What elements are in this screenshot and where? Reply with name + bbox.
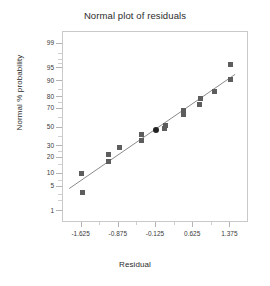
y-tick xyxy=(56,157,62,158)
data-point xyxy=(162,126,167,131)
y-tick-minor xyxy=(58,200,62,201)
x-tick-label: -0.125 xyxy=(135,230,175,237)
x-tick-label: -0.875 xyxy=(98,230,138,237)
y-tick-label: 99 xyxy=(14,39,54,46)
y-tick-minor xyxy=(58,89,62,90)
y-tick-minor xyxy=(58,59,62,60)
y-tick-minor xyxy=(58,180,62,181)
y-tick-minor xyxy=(58,63,62,64)
y-tick xyxy=(56,145,62,146)
normal-probability-plot: Normal plot of residuals Normal % probab… xyxy=(0,0,270,286)
plot-area xyxy=(62,31,248,222)
y-tick-minor xyxy=(58,136,62,137)
y-tick-label: 10 xyxy=(14,169,54,176)
data-point xyxy=(106,152,111,157)
data-point xyxy=(106,159,111,164)
data-point xyxy=(197,102,202,107)
data-point xyxy=(212,89,217,94)
y-tick-label: 20 xyxy=(14,153,54,160)
data-point xyxy=(139,138,144,143)
y-tick-minor xyxy=(58,102,62,103)
y-tick xyxy=(56,173,62,174)
chart-title: Normal plot of residuals xyxy=(0,10,270,21)
x-tick-label: 1.375 xyxy=(209,230,249,237)
y-tick xyxy=(56,80,62,81)
y-tick xyxy=(56,96,62,97)
y-tick xyxy=(56,108,62,109)
y-tick-label: 90 xyxy=(14,77,54,84)
y-tick-minor xyxy=(58,53,62,54)
y-tick-minor xyxy=(58,164,62,165)
y-tick-minor xyxy=(58,194,62,195)
x-tick-minor xyxy=(136,222,137,225)
data-point xyxy=(181,112,186,117)
y-tick-label: 30 xyxy=(14,142,54,149)
y-tick xyxy=(56,186,62,187)
y-tick xyxy=(56,67,62,68)
data-point-highlighted xyxy=(153,127,159,133)
y-tick-label: 70 xyxy=(14,104,54,111)
x-tick-minor xyxy=(174,222,175,225)
x-tick-minor xyxy=(211,222,212,225)
x-tick-label: -1.625 xyxy=(61,230,101,237)
data-point xyxy=(198,96,203,101)
x-tick xyxy=(155,222,156,227)
data-point xyxy=(80,190,85,195)
data-point xyxy=(139,132,144,137)
y-tick-minor xyxy=(58,117,62,118)
data-point xyxy=(117,145,122,150)
y-tick-label: 1 xyxy=(14,207,54,214)
x-tick xyxy=(118,222,119,227)
x-tick xyxy=(192,222,193,227)
x-tick xyxy=(81,222,82,227)
y-tick-label: 95 xyxy=(14,64,54,71)
x-tick-label: 0.625 xyxy=(172,230,212,237)
y-tick xyxy=(56,43,62,44)
data-point xyxy=(228,62,233,67)
x-tick-minor xyxy=(99,222,100,225)
data-point xyxy=(79,171,84,176)
y-tick-minor xyxy=(58,151,62,152)
y-tick-label: 80 xyxy=(14,93,54,100)
y-tick xyxy=(56,210,62,211)
y-tick-label: 5 xyxy=(14,182,54,189)
y-tick-label: 50 xyxy=(14,123,54,130)
y-tick xyxy=(56,127,62,128)
x-axis-title: Residual xyxy=(0,260,270,269)
x-tick xyxy=(229,222,230,227)
data-point xyxy=(228,77,233,82)
reference-line xyxy=(69,74,235,188)
